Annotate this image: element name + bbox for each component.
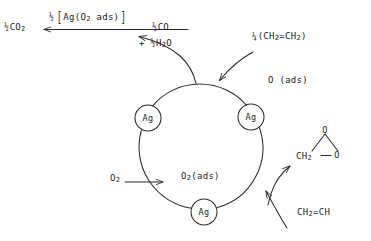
epoxide-ch2-subscript: 2 <box>307 154 312 162</box>
fraction-half-co2: ½ <box>4 23 9 32</box>
arrow-ring-to-epoxide <box>268 166 290 205</box>
label-epoxide-ch2: CH2 <box>296 151 312 162</box>
intermediate-tail: ads) <box>91 12 120 22</box>
epoxide-bond-left <box>312 134 325 151</box>
label-epoxide-oxygen: O <box>334 150 339 160</box>
label-oxygen-feed: O2 <box>110 173 120 184</box>
ag-node-right-label: Ag <box>246 112 257 122</box>
water-tail: O <box>166 38 172 48</box>
ag-left-text: Ag <box>143 113 154 123</box>
fraction-quarter-ethylene: ¼ <box>252 32 257 41</box>
arrow-ethylene-feed-lower <box>266 191 287 228</box>
oxygen-feed-subscript: 2 <box>116 176 121 184</box>
label-co2-product: ½CO2 <box>4 22 26 33</box>
ethylene-feed-tail: =CH <box>313 207 330 217</box>
ethylene-in-mid: =CH <box>279 31 296 41</box>
ag-node-left-label: Ag <box>143 113 154 123</box>
epoxide-bond-right <box>325 134 338 151</box>
epoxide-apex-text: O <box>322 125 327 135</box>
co2-subscript: 2 <box>21 25 26 33</box>
fraction-half-water: ½ <box>150 39 155 48</box>
dioxygen-ads-tail: (ads) <box>191 171 220 181</box>
fraction-half-intermediate: ½ <box>49 13 54 22</box>
ethylene-feed-text: CH <box>297 207 308 217</box>
ring-arc-top <box>153 84 247 106</box>
co2-text: CO <box>10 22 21 32</box>
ag-node-bottom-label: Ag <box>199 207 210 217</box>
ring-arc-left <box>139 131 191 209</box>
diagram-vector-layer <box>0 0 371 241</box>
label-epoxide-apex-oxygen: O <box>322 125 327 135</box>
co-text: CO <box>158 22 169 32</box>
label-ethylene-feed: CH2=CH <box>297 207 330 218</box>
label-silver-dioxygen-intermediate: ½[Ag(O2 ads)] <box>49 12 128 23</box>
arrow-ethylene-into-ring <box>220 52 254 81</box>
ag-bottom-text: Ag <box>199 207 210 217</box>
epoxide-ch2-text: CH <box>296 151 307 161</box>
ethylene-in-text: (CH <box>258 31 275 41</box>
label-ethylene-input: ¼(CH2=CH2) <box>252 31 307 42</box>
reaction-scheme-canvas: ½CO2 ½[Ag(O2 ads)] ½CO + ½H2O ¼(CH2=CH2)… <box>0 0 371 241</box>
epoxide-o-text: O <box>334 150 339 160</box>
label-co-product: ½CO <box>152 22 169 32</box>
ethylene-in-close: ) <box>301 31 307 41</box>
label-oxygen-adsorbed: O (ads) <box>268 75 308 85</box>
label-water-product: + ½H2O <box>139 38 172 49</box>
ring-arc-right <box>217 128 262 208</box>
intermediate-text: Ag(O <box>63 12 86 22</box>
ag-right-text: Ag <box>246 112 257 122</box>
plus-sign-water: + <box>139 38 150 48</box>
label-dioxygen-adsorbed: O2(ads) <box>181 171 220 182</box>
fraction-half-co: ½ <box>152 23 157 32</box>
oxygen-ads-text: O (ads) <box>268 75 308 85</box>
